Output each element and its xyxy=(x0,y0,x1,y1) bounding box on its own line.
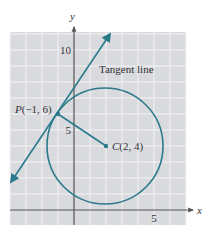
point-c-dot xyxy=(104,144,108,148)
point-p-coords: (−1, 6) xyxy=(22,103,52,116)
tangent-line-diagram: x y 10 5 5 P(−1, 6) C(2, 4) Tangent line xyxy=(0,0,211,234)
point-c-coords: (2, 4) xyxy=(119,140,143,153)
y-tick-label-5: 5 xyxy=(66,124,72,136)
point-c-label: C(2, 4) xyxy=(112,140,144,153)
x-tick-label-5: 5 xyxy=(151,212,157,224)
y-tick-label-10: 10 xyxy=(60,44,72,56)
tangent-line-label: Tangent line xyxy=(99,63,154,75)
y-axis-label: y xyxy=(69,10,75,22)
point-p-label: P(−1, 6) xyxy=(14,103,52,116)
point-p-dot xyxy=(56,112,60,116)
x-axis-label: x xyxy=(196,204,202,216)
